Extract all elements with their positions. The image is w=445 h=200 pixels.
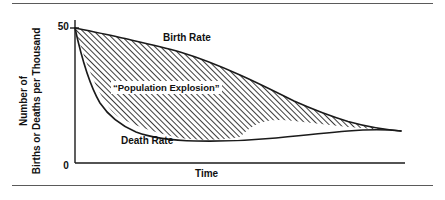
y-axis-tick-label-50: 50 bbox=[55, 21, 69, 32]
population-explosion-annotation: “Population Explosion” bbox=[111, 81, 222, 94]
y-axis-tick-label-0: 0 bbox=[59, 160, 69, 171]
x-axis-title: Time bbox=[195, 168, 218, 179]
y-axis-title-line-2: Births or Deaths per Thousand bbox=[30, 26, 43, 176]
birth-rate-label: Birth Rate bbox=[163, 32, 211, 43]
y-axis-title-line-1: Number of bbox=[17, 26, 30, 176]
death-rate-label: Death Rate bbox=[121, 135, 173, 146]
y-axis-title: Number of Births or Deaths per Thousand bbox=[17, 26, 43, 176]
demographic-transition-figure: 50 0 Number of Births or Deaths per Thou… bbox=[0, 0, 445, 200]
